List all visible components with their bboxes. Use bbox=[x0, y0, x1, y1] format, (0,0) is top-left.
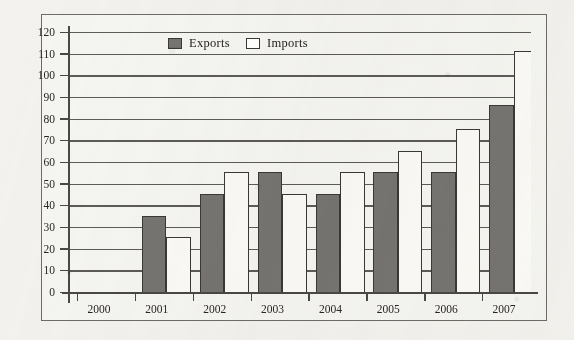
bar-group-2001 bbox=[200, 64, 249, 292]
y-tick-label: 30 bbox=[44, 221, 56, 233]
y-tick-label: 110 bbox=[38, 48, 55, 60]
imports-swatch-icon bbox=[246, 38, 260, 49]
x-category-label: 2004 bbox=[319, 303, 342, 315]
bar-exports-2001 bbox=[200, 194, 225, 292]
y-tick-label: 70 bbox=[44, 134, 56, 146]
x-tick-2005 bbox=[366, 292, 367, 301]
y-axis-labels: 1201101009080706050403020100 bbox=[0, 0, 58, 340]
bar-group-2004 bbox=[373, 64, 422, 292]
y-tick-label: 80 bbox=[44, 113, 56, 125]
bar-exports-2000 bbox=[142, 216, 167, 292]
legend-item-imports: Imports bbox=[246, 36, 308, 51]
y-tick-label: 50 bbox=[44, 178, 56, 190]
bar-group-2003 bbox=[316, 64, 365, 292]
bar-groups bbox=[136, 64, 531, 292]
x-tick-2000 bbox=[77, 292, 78, 301]
y-tick-label: 90 bbox=[44, 91, 56, 103]
bar-imports-2006 bbox=[514, 51, 531, 292]
x-tick-2002 bbox=[193, 292, 194, 301]
plot-area bbox=[68, 32, 531, 292]
x-tick-2003 bbox=[251, 292, 252, 301]
chart-figure: 1201101009080706050403020100 20002001200… bbox=[0, 0, 574, 340]
bar-imports-2004 bbox=[398, 151, 423, 292]
x-category-label: 2002 bbox=[203, 303, 226, 315]
bar-group-2000 bbox=[142, 64, 191, 292]
bar-exports-2002 bbox=[258, 172, 283, 292]
y-tick-label: 60 bbox=[44, 156, 56, 168]
y-tick-label: 120 bbox=[38, 26, 55, 38]
x-tick-2006 bbox=[424, 292, 425, 301]
chart-legend: Exports Imports bbox=[168, 36, 308, 51]
bar-group-2006 bbox=[489, 64, 531, 292]
x-category-label: 2007 bbox=[493, 303, 516, 315]
bar-exports-2006 bbox=[489, 105, 514, 292]
bar-imports-2001 bbox=[224, 172, 249, 292]
bar-exports-2003 bbox=[316, 194, 341, 292]
bar-exports-2004 bbox=[373, 172, 398, 292]
bar-group-2002 bbox=[258, 64, 307, 292]
legend-label-imports: Imports bbox=[267, 36, 308, 51]
y-tick-label: 20 bbox=[44, 243, 56, 255]
bar-group-2005 bbox=[431, 64, 480, 292]
y-tick-label: 40 bbox=[44, 199, 56, 211]
x-category-label: 2003 bbox=[261, 303, 284, 315]
bar-exports-2005 bbox=[431, 172, 456, 292]
bar-imports-2000 bbox=[166, 237, 191, 292]
x-tick-2001 bbox=[135, 292, 136, 301]
x-axis-line bbox=[62, 292, 538, 294]
legend-item-exports: Exports bbox=[168, 36, 230, 51]
y-tick-label: 100 bbox=[38, 69, 55, 81]
legend-label-exports: Exports bbox=[189, 36, 230, 51]
bar-imports-2005 bbox=[456, 129, 481, 292]
x-category-label: 2000 bbox=[87, 303, 110, 315]
x-category-label: 2005 bbox=[377, 303, 400, 315]
bar-imports-2002 bbox=[282, 194, 307, 292]
x-category-label: 2001 bbox=[145, 303, 168, 315]
x-tick-2007 bbox=[482, 292, 483, 301]
y-tick-label: 0 bbox=[49, 286, 55, 298]
exports-swatch-icon bbox=[168, 38, 182, 49]
bar-imports-2003 bbox=[340, 172, 365, 292]
x-tick-2004 bbox=[308, 292, 309, 301]
x-category-label: 2006 bbox=[435, 303, 458, 315]
y-tick-label: 10 bbox=[44, 264, 56, 276]
